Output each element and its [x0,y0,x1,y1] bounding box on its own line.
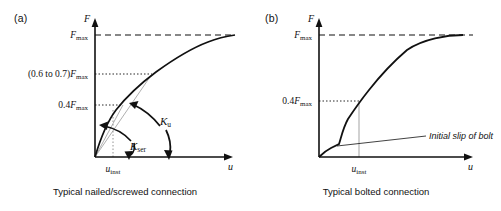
x-tick-uinst-a: uinst [106,164,121,176]
ku-label: Ku [159,115,171,129]
y-tick-06to07fmax-a: (0.6 to 0.7)Fmax [28,69,89,81]
x-tick-uinst-b: uinst [352,164,367,176]
panel-b-caption: Typical bolted connection [251,186,501,197]
y-axis-label-b: F [307,13,315,24]
ku-arrow-left [134,105,160,126]
y-axis-arrow-a [92,18,99,27]
y-tick-04fmax-a: 0.4Fmax [58,100,88,112]
x-axis-arrow-a [224,154,233,161]
x-axis-label-a: u [228,161,233,172]
panel-b-plot: F u Fmax 0.4Fmax uinst Initial slip of b… [251,0,501,211]
kser-arrow-down-head [125,151,134,160]
load-slip-curve-a [95,35,235,157]
y-axis-arrow-b [316,18,323,27]
x-axis-label-b: u [468,161,473,172]
kser-arrow-left-head [99,122,108,131]
kser-label: Kser [129,140,147,154]
y-tick-fmax-a: Fmax [69,30,88,42]
panel-a-plot: F u Fmax (0.6 to 0.7)Fmax 0.4Fmax uinst … [0,0,250,211]
initial-slip-leader-line [337,136,426,146]
y-tick-fmax-b: Fmax [293,30,312,42]
x-axis-arrow-b [464,154,473,161]
y-tick-04fmax-b: 0.4Fmax [282,96,312,108]
y-axis-label-a: F [83,13,91,24]
initial-slip-note-label: Initial slip of bolt [429,131,494,141]
panel-a-nailed-screwed: (a) F u Fmax (0.6 [0,0,250,211]
panel-b-bolted: (b) F u Fmax 0.4Fmax uins [251,0,501,211]
ku-arrow-down-head [164,150,173,160]
ku-arrow-down [166,130,170,153]
panel-a-caption: Typical nailed/screwed connection [0,186,250,197]
figure-load-slip-curves: (a) F u Fmax (0.6 [0,0,501,211]
